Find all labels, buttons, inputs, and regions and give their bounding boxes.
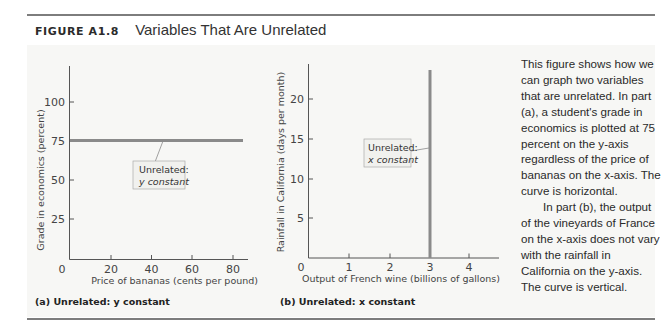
description-paragraph-2: In part (b), the output of the vineyards… [521,199,661,294]
chart-a-ytick-100: 100 [44,96,65,109]
chart-b-x-ticks: 0 1 2 3 4 [298,254,473,275]
chart-a-callout-line1: Unrelated: [139,164,189,175]
chart-a-y-axis-title: Grade in economics (percent) [35,109,46,250]
chart-a-x-ticks: 0 20 40 60 80 [59,255,241,276]
chart-b-callout-line1: Unrelated: [368,142,418,153]
chart-b-ytick-20: 20 [290,93,304,106]
chart-b-ytick-10: 10 [290,173,304,186]
chart-b: 20 15 10 5 0 1 2 3 4 Output of French wi… [275,64,500,284]
chart-a-ytick-25: 25 [51,213,65,226]
chart-a-xtick-0: 0 [59,263,66,276]
chart-a-ytick-50: 50 [51,174,65,187]
chart-a-caption: (a) Unrelated: y constant [35,296,170,307]
chart-a: 100 75 50 25 0 20 40 60 80 Price of bana… [35,66,258,286]
bottom-rule [27,318,655,320]
chart-b-y-axis-title: Rainfall in California (days per month) [275,72,286,253]
chart-b-callout-line2: x constant [367,154,419,165]
chart-a-callout-line2: y constant [138,176,190,187]
chart-b-y-ticks: 20 15 10 5 [290,93,313,225]
chart-b-caption: (b) Unrelated: x constant [280,296,415,307]
chart-b-ytick-15: 15 [290,133,304,146]
chart-a-ytick-75: 75 [51,135,65,148]
chart-b-x-axis-title: Output of French wine (billions of gallo… [302,273,500,284]
figure-description: This figure shows how we can graph two v… [521,56,661,295]
chart-a-x-axis-title: Price of bananas (cents per pound) [91,275,258,286]
description-paragraph-1: This figure shows how we can graph two v… [521,56,661,199]
chart-b-ytick-5: 5 [297,212,304,225]
chart-a-callout-leader [155,141,163,162]
